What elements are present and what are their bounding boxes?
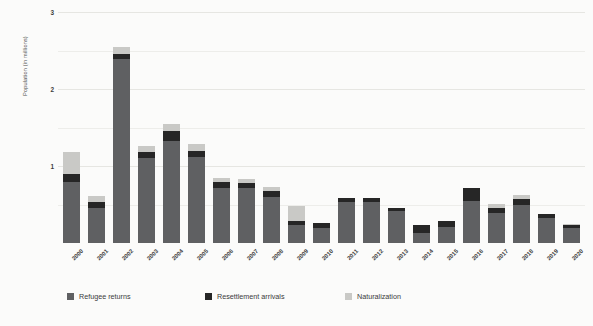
- x-axis-label-2012: 2012: [358, 248, 383, 273]
- bar-2017[interactable]: [488, 204, 505, 243]
- plot-area: [58, 12, 585, 243]
- bar-segment-refugee-returns: [538, 218, 555, 243]
- x-axis-label-2005: 2005: [183, 248, 208, 273]
- legend-label: Resettlement arrivals: [217, 292, 285, 301]
- bar-2005[interactable]: [188, 144, 205, 243]
- bar-2013[interactable]: [388, 208, 405, 243]
- bar-2007[interactable]: [238, 179, 255, 243]
- bar-segment-refugee-returns: [288, 225, 305, 243]
- y-axis-tick-label: 3: [40, 9, 54, 16]
- legend-item-naturalization[interactable]: Naturalization: [345, 292, 401, 301]
- bar-2015[interactable]: [438, 221, 455, 243]
- stacked-bar-chart: Population (in millions) 123 20002001200…: [0, 0, 593, 326]
- bar-segment-refugee-returns: [88, 208, 105, 243]
- bar-segment-naturalization: [113, 47, 130, 54]
- y-axis-title: Population (in millions): [22, 0, 28, 96]
- x-axis-label-2006: 2006: [208, 248, 233, 273]
- bar-segment-refugee-returns: [63, 182, 80, 243]
- bar-segment-refugee-returns: [488, 213, 505, 243]
- legend-label: Refugee returns: [79, 292, 131, 301]
- bar-2003[interactable]: [138, 146, 155, 243]
- legend-item-resettlement-arrivals[interactable]: Resettlement arrivals: [205, 292, 285, 301]
- legend-swatch-icon: [345, 293, 352, 300]
- bar-segment-refugee-returns: [513, 205, 530, 244]
- y-axis-tick-label: 2: [40, 86, 54, 93]
- bar-2012[interactable]: [363, 198, 380, 243]
- bar-2018[interactable]: [513, 195, 530, 243]
- x-axis-label-2004: 2004: [158, 248, 183, 273]
- legend-label: Naturalization: [357, 292, 401, 301]
- bar-2002[interactable]: [113, 47, 130, 243]
- bar-segment-refugee-returns: [213, 188, 230, 243]
- bar-segment-refugee-returns: [263, 197, 280, 243]
- bar-2006[interactable]: [213, 178, 230, 243]
- x-axis-label-2019: 2019: [533, 248, 558, 273]
- bar-2004[interactable]: [163, 124, 180, 243]
- bar-segment-naturalization: [288, 206, 305, 221]
- bar-segment-refugee-returns: [563, 228, 580, 243]
- bar-segment-resettlement-arrivals: [463, 188, 480, 200]
- bar-2010[interactable]: [313, 223, 330, 243]
- x-axis-label-2008: 2008: [258, 248, 283, 273]
- bar-2009[interactable]: [288, 206, 305, 243]
- legend-swatch-icon: [205, 293, 212, 300]
- x-axis-label-2002: 2002: [108, 248, 133, 273]
- bar-segment-refugee-returns: [138, 158, 155, 243]
- bar-segment-refugee-returns: [338, 202, 355, 243]
- bar-segment-refugee-returns: [188, 157, 205, 243]
- bar-segment-refugee-returns: [388, 211, 405, 243]
- bar-segment-resettlement-arrivals: [413, 225, 430, 233]
- bar-segment-refugee-returns: [438, 227, 455, 243]
- x-axis-label-2013: 2013: [383, 248, 408, 273]
- x-axis-label-2011: 2011: [333, 248, 358, 273]
- x-axis-label-2016: 2016: [458, 248, 483, 273]
- x-axis-label-2003: 2003: [133, 248, 158, 273]
- bar-segment-resettlement-arrivals: [163, 131, 180, 141]
- bar-segment-refugee-returns: [163, 141, 180, 243]
- x-axis-label-2007: 2007: [233, 248, 258, 273]
- x-axis-label-2018: 2018: [508, 248, 533, 273]
- bar-segment-refugee-returns: [363, 202, 380, 243]
- bar-2016[interactable]: [463, 188, 480, 243]
- x-axis-label-2010: 2010: [308, 248, 333, 273]
- x-axis-label-2001: 2001: [83, 248, 108, 273]
- bar-2019[interactable]: [538, 214, 555, 243]
- bar-segment-naturalization: [63, 152, 80, 174]
- bar-segment-resettlement-arrivals: [63, 174, 80, 182]
- bar-segment-refugee-returns: [113, 59, 130, 243]
- x-axis-label-2020: 2020: [558, 248, 583, 273]
- bar-segment-naturalization: [163, 124, 180, 132]
- bar-segment-refugee-returns: [313, 228, 330, 243]
- bar-segment-refugee-returns: [238, 188, 255, 243]
- bar-2000[interactable]: [63, 152, 80, 243]
- legend-swatch-icon: [67, 293, 74, 300]
- x-axis-label-2017: 2017: [483, 248, 508, 273]
- bar-segment-naturalization: [188, 144, 205, 151]
- bar-2008[interactable]: [263, 187, 280, 243]
- x-axis-label-2014: 2014: [408, 248, 433, 273]
- x-axis-label-2009: 2009: [283, 248, 308, 273]
- bar-2001[interactable]: [88, 196, 105, 243]
- bar-segment-refugee-returns: [463, 201, 480, 243]
- chart-legend: Refugee returnsResettlement arrivalsNatu…: [0, 292, 593, 312]
- legend-item-refugee-returns[interactable]: Refugee returns: [67, 292, 131, 301]
- bar-2020[interactable]: [563, 224, 580, 243]
- bar-2011[interactable]: [338, 198, 355, 243]
- x-axis-label-2000: 2000: [58, 248, 83, 273]
- bar-2014[interactable]: [413, 225, 430, 243]
- bar-segment-refugee-returns: [413, 233, 430, 243]
- x-axis-label-2015: 2015: [433, 248, 458, 273]
- y-axis-tick-label: 1: [40, 163, 54, 170]
